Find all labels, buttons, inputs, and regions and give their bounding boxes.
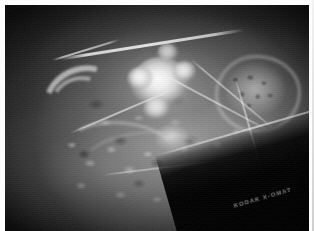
mount-right-rule [312,0,314,231]
radiograph-plate: KODAK X-OMAT [5,5,309,231]
calcified-mass-lobe-d [157,43,179,63]
calcified-mass-lobe-a [127,67,153,91]
radiograph-screenshot: KODAK X-OMAT Lateral radiograph showing … [0,0,314,231]
